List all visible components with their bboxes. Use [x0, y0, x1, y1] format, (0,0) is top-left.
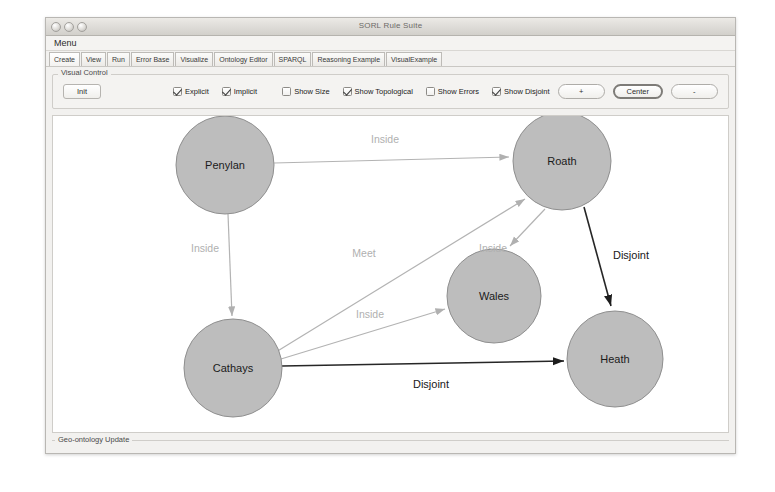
tab-view[interactable]: View — [81, 52, 106, 66]
node-cathays-label: Cathays — [213, 362, 254, 374]
edge-penylan-cathays[interactable] — [228, 214, 232, 316]
visual-control-group: Visual Control Init Explicit Implicit Sh… — [52, 74, 729, 109]
checkbox-explicit-label: Explicit — [185, 88, 209, 96]
tab-visualize[interactable]: Visualize — [175, 52, 213, 66]
checkbox-show-disjoint-label: Show Disjoint — [504, 88, 549, 96]
visual-control-row: Init Explicit Implicit Show Size Show To… — [53, 75, 728, 108]
geo-ontology-update-group: Geo-ontology Update Feature Name Add Ant… — [52, 440, 729, 454]
edge-label-roath-wales: Inside — [479, 242, 507, 254]
checkbox-explicit[interactable]: Explicit — [173, 87, 209, 96]
node-roath-label: Roath — [547, 155, 576, 167]
node-heath[interactable]: Heath — [567, 311, 663, 407]
menu-item-menu[interactable]: Menu — [51, 38, 80, 48]
edge-label-penylan-cathays: Inside — [191, 242, 219, 254]
tab-run[interactable]: Run — [107, 52, 130, 66]
graph-svg: Penylan Roath Wales Heath — [53, 116, 729, 432]
checkbox-show-errors-box[interactable] — [426, 87, 435, 96]
checkbox-show-errors-label: Show Errors — [438, 88, 479, 96]
edge-penylan-roath[interactable] — [274, 157, 509, 163]
window-titlebar: SORL Rule Suite — [46, 18, 735, 36]
tab-visual-example[interactable]: VisualExample — [386, 52, 442, 66]
checkbox-show-size-box[interactable] — [282, 87, 291, 96]
edge-label-cathays-heath: Disjoint — [413, 378, 449, 390]
node-roath[interactable]: Roath — [513, 116, 611, 210]
graph-canvas[interactable]: Penylan Roath Wales Heath — [52, 115, 729, 433]
tab-ontology-editor[interactable]: Ontology Editor — [214, 52, 272, 66]
tab-reasoning-example[interactable]: Reasoning Example — [312, 52, 385, 66]
checkbox-show-errors[interactable]: Show Errors — [426, 87, 479, 96]
geo-ontology-update-legend: Geo-ontology Update — [55, 435, 132, 444]
checkbox-show-size[interactable]: Show Size — [282, 87, 329, 96]
checkbox-implicit-label: Implicit — [234, 88, 257, 96]
edge-label-roath-heath: Disjoint — [613, 249, 649, 261]
tab-create[interactable]: Create — [49, 52, 80, 66]
checkbox-show-topological[interactable]: Show Topological — [343, 87, 413, 96]
graph-nodes: Penylan Roath Wales Heath — [176, 116, 663, 417]
checkbox-show-size-label: Show Size — [294, 88, 329, 96]
checkbox-show-disjoint[interactable]: Show Disjoint — [492, 87, 549, 96]
node-cathays[interactable]: Cathays — [184, 319, 282, 417]
zoom-out-button[interactable]: - — [671, 84, 719, 99]
init-button[interactable]: Init — [63, 84, 101, 100]
edge-roath-wales[interactable] — [510, 209, 545, 246]
window-title: SORL Rule Suite — [46, 21, 735, 30]
menu-bar: Menu — [46, 36, 735, 51]
checkbox-implicit[interactable]: Implicit — [222, 87, 257, 96]
checkbox-explicit-box[interactable] — [173, 87, 182, 96]
screenshot-root: SORL Rule Suite Menu Create View Run Err… — [0, 0, 775, 492]
node-heath-label: Heath — [600, 353, 629, 365]
edge-label-cathays-roath: Meet — [352, 247, 375, 259]
tab-strip: Create View Run Error Base Visualize Ont… — [46, 51, 735, 67]
node-penylan[interactable]: Penylan — [176, 116, 274, 214]
center-button[interactable]: Center — [613, 84, 663, 99]
edge-label-cathays-wales: Inside — [356, 308, 384, 320]
tab-error-base[interactable]: Error Base — [131, 52, 174, 66]
node-wales[interactable]: Wales — [447, 249, 541, 343]
checkbox-show-disjoint-box[interactable] — [492, 87, 501, 96]
node-penylan-label: Penylan — [205, 159, 245, 171]
edge-roath-heath[interactable] — [584, 207, 611, 306]
node-wales-label: Wales — [479, 290, 510, 302]
tab-sparql[interactable]: SPARQL — [274, 52, 312, 66]
edge-label-penylan-roath: Inside — [371, 133, 399, 145]
application-window: SORL Rule Suite Menu Create View Run Err… — [45, 17, 736, 454]
checkbox-show-topological-label: Show Topological — [355, 88, 413, 96]
checkbox-implicit-box[interactable] — [222, 87, 231, 96]
edge-cathays-heath[interactable] — [282, 361, 564, 366]
zoom-in-button[interactable]: + — [558, 84, 606, 99]
checkbox-show-topological-box[interactable] — [343, 87, 352, 96]
